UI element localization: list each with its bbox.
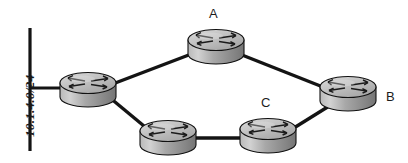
router-label-a: A xyxy=(209,7,218,20)
link-left-to-bottom-left xyxy=(109,97,150,131)
router-label-c: C xyxy=(261,96,270,109)
router-label-b: B xyxy=(386,90,395,103)
link-left-to-a xyxy=(110,53,194,85)
ethernet-segment-label: 10.1.4.0/24 xyxy=(22,75,38,137)
link-layer xyxy=(0,0,408,163)
network-topology-diagram: A B C 10.1.4.0/24 xyxy=(0,0,408,163)
link-a-to-b xyxy=(242,55,328,89)
link-c-to-b xyxy=(289,103,334,131)
